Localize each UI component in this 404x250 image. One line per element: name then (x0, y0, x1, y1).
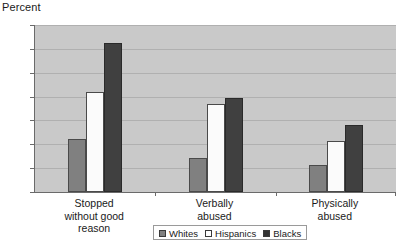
bar-whites-2 (309, 165, 327, 192)
legend-label: Hispanics (215, 228, 256, 239)
gridline (35, 25, 396, 26)
gridline (35, 73, 396, 74)
bar-blacks-0 (104, 43, 122, 192)
gridline (35, 49, 396, 50)
x-tick-mark (276, 192, 277, 196)
legend-swatch-icon (263, 230, 270, 237)
x-category-label-0: Stopped without good reason (34, 197, 154, 235)
y-tick-mark (30, 97, 34, 98)
legend-item-blacks: Blacks (263, 228, 301, 239)
bar-whites-0 (68, 139, 86, 192)
legend-item-whites: Whites (159, 228, 198, 239)
legend-label: Whites (169, 228, 198, 239)
y-axis-title: Percent (2, 1, 41, 13)
bar-whites-1 (189, 158, 207, 192)
y-tick-mark (30, 120, 34, 121)
chart-legend: WhitesHispanicsBlacks (153, 225, 307, 240)
bar-blacks-2 (345, 125, 363, 192)
bar-hispanics-1 (207, 104, 225, 192)
legend-label: Blacks (273, 228, 301, 239)
y-tick-mark (30, 73, 34, 74)
x-category-label-1: Verbally abused (154, 197, 274, 222)
plot-area (34, 25, 396, 193)
legend-item-hispanics: Hispanics (205, 228, 256, 239)
y-tick-mark (30, 192, 34, 193)
y-tick-mark (30, 168, 34, 169)
y-tick-mark (30, 49, 34, 50)
y-tick-mark (30, 25, 34, 26)
bar-hispanics-0 (86, 92, 104, 192)
legend-swatch-icon (159, 230, 166, 237)
x-tick-mark (395, 192, 396, 196)
bar-chart: Percent 35302520151050 Stopped without g… (0, 0, 404, 250)
y-tick-mark (30, 144, 34, 145)
legend-swatch-icon (205, 230, 212, 237)
bar-blacks-1 (225, 98, 243, 192)
x-tick-mark (155, 192, 156, 196)
bar-hispanics-2 (327, 141, 345, 192)
x-category-label-2: Physically abused (275, 197, 395, 222)
